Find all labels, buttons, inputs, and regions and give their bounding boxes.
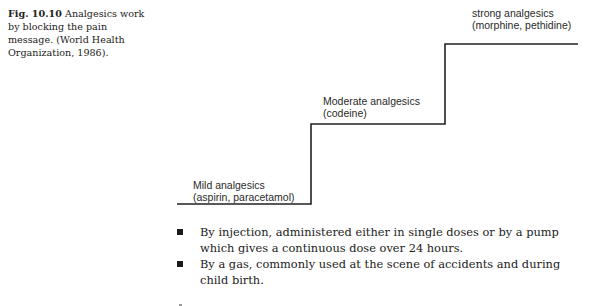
analgesic-ladder-figure: strong analgesics (morphine, pethidine) … — [0, 0, 589, 220]
step-examples: (codeine) — [323, 107, 420, 119]
list-item-text: By a gas, commonly used at the scene of … — [200, 257, 560, 287]
square-bullet-icon — [177, 261, 183, 267]
step-label-mild: Mild analgesics (aspirin, paracetamol) — [193, 179, 295, 203]
clipped-next-line — [177, 302, 297, 306]
list-item: By a gas, commonly used at the scene of … — [177, 256, 582, 288]
step-title: strong analgesics — [472, 7, 571, 19]
step-label-strong: strong analgesics (morphine, pethidine) — [472, 7, 571, 31]
list-item: By injection, administered either in sin… — [177, 224, 582, 256]
step-examples: (aspirin, paracetamol) — [193, 191, 295, 203]
step-title: Mild analgesics — [193, 179, 295, 191]
step-title: Moderate analgesics — [323, 95, 420, 107]
list-item-text: By injection, administered either in sin… — [200, 225, 559, 255]
step-examples: (morphine, pethidine) — [472, 19, 571, 31]
step-label-moderate: Moderate analgesics (codeine) — [323, 95, 420, 119]
square-bullet-icon — [177, 229, 183, 235]
bullet-list: By injection, administered either in sin… — [177, 224, 582, 288]
